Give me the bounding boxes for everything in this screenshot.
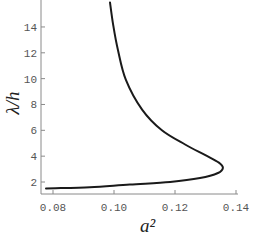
x-tick-label: 0.12 <box>162 202 188 214</box>
axes <box>41 0 238 194</box>
x-tick-label: 0.14 <box>223 202 250 214</box>
x-tick-label: 0.10 <box>101 202 127 214</box>
y-tick-label: 2 <box>30 177 37 189</box>
chart: 0.080.100.120.14 2468101214 a² λ/h <box>0 0 257 239</box>
x-tick-label: 0.08 <box>40 202 66 214</box>
y-tick-label: 6 <box>30 125 37 137</box>
data-curve <box>46 2 223 188</box>
y-tick-label: 4 <box>30 151 37 163</box>
y-tick-label: 12 <box>24 48 37 60</box>
y-tick-label: 8 <box>30 99 37 111</box>
x-axis-label: a² <box>140 215 156 236</box>
y-axis-label: λ/h <box>2 91 23 115</box>
y-tick-label: 14 <box>24 22 38 34</box>
y-ticks: 2468101214 <box>24 22 45 189</box>
y-tick-label: 10 <box>24 74 37 86</box>
